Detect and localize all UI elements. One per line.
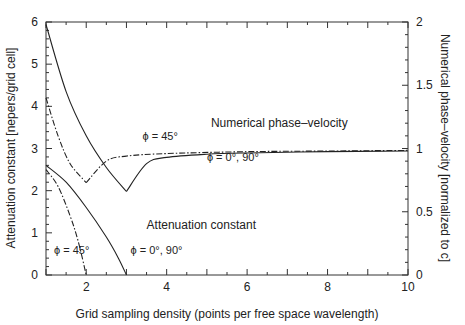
plot-frame	[46, 22, 408, 275]
annotation-label: Attenuation constant	[147, 218, 257, 232]
y-tick-label-left: 3	[31, 142, 38, 156]
series-curve	[46, 165, 126, 275]
y-tick-label-right: 0.5	[416, 205, 433, 219]
y-axis-label-right: Numerical phase–velocity [normalized to …	[438, 34, 452, 262]
series-curve	[126, 151, 408, 191]
attenuation-phase-velocity-chart: 246810012345600.511.52 Numerical phase–v…	[0, 0, 465, 325]
annotation-label: ϕ = 45°	[143, 130, 178, 142]
annotation-label: Numerical phase–velocity	[211, 116, 348, 130]
x-tick-label: 8	[324, 280, 331, 294]
annotations: Numerical phase–velocityϕ = 45°ϕ = 0°, 9…	[54, 116, 348, 256]
y-tick-label-right: 2	[416, 15, 423, 29]
x-tick-label: 10	[401, 280, 415, 294]
y-tick-label-right: 1	[416, 142, 423, 156]
y-tick-label-left: 4	[31, 99, 38, 113]
axis-ticks	[46, 22, 408, 275]
annotation-label: ϕ = 45°	[54, 244, 89, 256]
y-tick-label-left: 5	[31, 57, 38, 71]
x-tick-label: 4	[163, 280, 170, 294]
y-tick-label-left: 0	[31, 268, 38, 282]
annotation-label: ϕ = 0°, 90°	[130, 244, 182, 256]
x-axis-label: Grid sampling density (points per free s…	[76, 307, 379, 321]
y-tick-label-right: 1.5	[416, 78, 433, 92]
x-tick-label: 6	[244, 280, 251, 294]
y-tick-label-left: 2	[31, 184, 38, 198]
data-curves	[46, 25, 408, 275]
annotation-label: ϕ = 0°, 90°	[207, 151, 259, 163]
series-curve	[46, 170, 86, 275]
y-tick-label-left: 6	[31, 15, 38, 29]
y-tick-label-left: 1	[31, 226, 38, 240]
y-tick-label-right: 0	[416, 268, 423, 282]
series-curve	[46, 25, 126, 192]
y-axis-label-left: Attenuation constant [nepers/grid cell]	[4, 48, 18, 249]
x-tick-label: 2	[83, 280, 90, 294]
